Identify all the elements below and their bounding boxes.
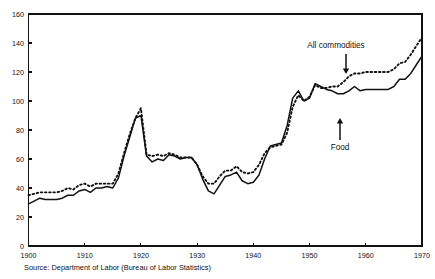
y-tick-label: 160 <box>12 10 24 19</box>
series-line-food <box>29 56 423 204</box>
x-tick-label: 1920 <box>133 251 149 260</box>
x-tick-label: 1960 <box>358 251 374 260</box>
y-tick-label: 120 <box>12 68 24 77</box>
y-tick-label: 140 <box>12 39 24 48</box>
y-tick-label: 0 <box>20 242 24 251</box>
series-line-all-commodities <box>29 37 423 195</box>
chart-figure: 020406080100120140160 190019101920193019… <box>0 0 435 279</box>
y-tick-label: 60 <box>16 155 24 164</box>
x-tick-label: 1930 <box>189 251 205 260</box>
x-tick-label: 1950 <box>302 251 318 260</box>
y-tick-label: 80 <box>16 126 24 135</box>
x-axis-ticks: 19001910192019301940195019601970 <box>21 243 431 260</box>
annotation-arrowhead-food <box>337 118 343 124</box>
price-index-line-chart: 020406080100120140160 190019101920193019… <box>0 0 435 279</box>
x-tick-label: 1900 <box>21 251 37 260</box>
chart-series <box>29 37 423 204</box>
annotation-label-all-commodities: All commodities <box>307 41 364 50</box>
annotation-arrowhead-all-commodities <box>343 69 349 75</box>
x-tick-label: 1940 <box>245 251 261 260</box>
y-tick-label: 40 <box>16 184 24 193</box>
y-tick-label: 100 <box>12 97 24 106</box>
x-tick-label: 1910 <box>77 251 93 260</box>
chart-annotations: All commoditiesFood <box>307 41 364 152</box>
y-tick-label: 20 <box>16 213 24 222</box>
x-tick-label: 1970 <box>414 251 430 260</box>
source-note: Source: Department of Labor (Bureau of L… <box>24 263 211 272</box>
annotation-label-food: Food <box>331 143 350 152</box>
